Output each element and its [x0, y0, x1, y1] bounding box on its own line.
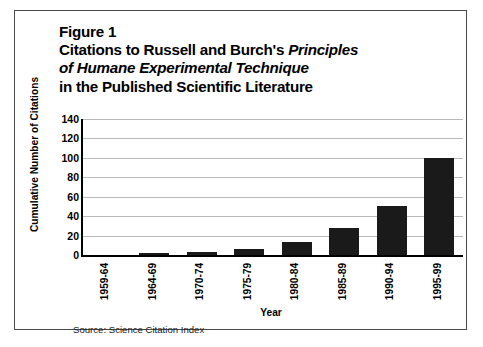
figure-title-block: Figure 1 Citations to Russell and Burch'… — [59, 23, 459, 96]
figure-frame: Figure 1 Citations to Russell and Burch'… — [14, 10, 467, 330]
bar — [282, 242, 312, 255]
y-axis-tick-label: 120 — [61, 133, 79, 143]
x-axis-tick-label: 1995-99 — [432, 263, 443, 300]
y-axis-tick-label: 0 — [73, 250, 79, 260]
source-note: Source: Science Citation Index — [73, 324, 204, 335]
x-axis-tick-label: 1990-94 — [384, 263, 395, 300]
x-tick-slot: 1985-89 — [319, 259, 367, 307]
bar — [329, 228, 359, 255]
x-axis-title: Year — [81, 307, 461, 318]
x-tick-slot: 1975-79 — [224, 259, 272, 307]
x-tick-slot: 1964-69 — [129, 259, 177, 307]
figure-title-line-2-italic: Principles — [288, 41, 358, 58]
x-axis-tick-label: 1975-79 — [242, 263, 253, 300]
bar-slot — [83, 119, 131, 255]
figure-title-line-2: Citations to Russell and Burch's Princip… — [59, 41, 459, 59]
x-axis-tick-label: 1970-74 — [194, 263, 205, 300]
y-axis-tick-label: 140 — [61, 114, 79, 124]
x-tick-slot: 1970-74 — [176, 259, 224, 307]
bar-slot — [226, 119, 274, 255]
bar-slot — [131, 119, 179, 255]
y-axis-tick-label: 20 — [67, 231, 79, 241]
bar-slot — [368, 119, 416, 255]
x-axis-tick-label: 1985-89 — [337, 263, 348, 300]
bar-series — [83, 119, 463, 255]
figure-title-line-3: of Humane Experimental Technique — [59, 59, 459, 77]
figure-title-line-1: Figure 1 — [59, 23, 459, 41]
y-axis-tick-labels: 020406080100120140 — [45, 119, 79, 255]
x-axis-tick-labels: 1959-641964-691970-741975-791980-841985-… — [81, 259, 461, 307]
bar — [234, 249, 264, 255]
bar-slot — [178, 119, 226, 255]
x-axis-tick-label: 1980-84 — [289, 263, 300, 300]
y-axis-tick-label: 80 — [67, 172, 79, 182]
bar-slot — [273, 119, 321, 255]
figure-title-line-4: in the Published Scientific Literature — [59, 78, 459, 96]
bar-slot — [416, 119, 464, 255]
x-tick-slot: 1995-99 — [414, 259, 462, 307]
x-tick-slot: 1990-94 — [366, 259, 414, 307]
bar — [139, 253, 169, 255]
bar — [187, 252, 217, 255]
y-axis-tick-label: 40 — [67, 211, 79, 221]
x-tick-slot: 1959-64 — [81, 259, 129, 307]
x-tick-slot: 1980-84 — [271, 259, 319, 307]
y-axis-tick-label: 60 — [67, 192, 79, 202]
y-axis-tick-label: 100 — [61, 153, 79, 163]
figure-title-line-3-italic: of Humane Experimental Technique — [59, 59, 309, 76]
plot-area — [81, 119, 463, 257]
bar — [377, 206, 407, 255]
x-axis-tick-label: 1964-69 — [147, 263, 158, 300]
x-axis-tick-label: 1959-64 — [99, 263, 110, 300]
bar-slot — [321, 119, 369, 255]
figure-title-line-2-plain: Citations to Russell and Burch's — [59, 41, 288, 58]
y-axis-title: Cumulative Number of Citations — [29, 62, 40, 248]
bar — [424, 158, 454, 255]
